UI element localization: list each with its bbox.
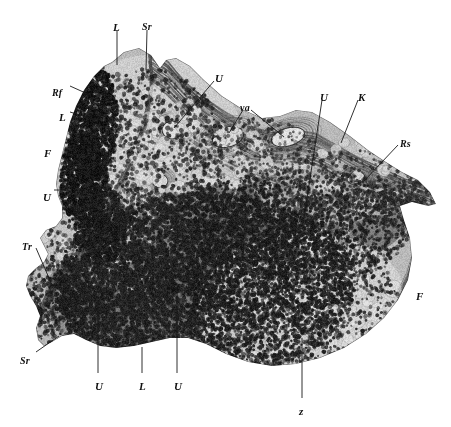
figure-label-L-left: L (59, 112, 66, 123)
figure-label-z-bot: z (299, 406, 303, 417)
figure-label-U-bot1: U (95, 381, 103, 392)
figure-label-U-upper: U (215, 73, 223, 84)
figure-label-F-right: F (416, 291, 424, 302)
histology-tissue-image (0, 0, 451, 427)
figure-label-va: va (240, 103, 250, 113)
figure-label-Rs-right: Rs (400, 139, 411, 149)
figure-label-Tr-left: Tr (22, 242, 32, 252)
figure-label-U-bot2: U (174, 381, 182, 392)
figure-label-L-top: L (113, 22, 120, 33)
figure-label-Rf-left: Rf (52, 88, 62, 98)
figure-label-F-left: F (44, 148, 52, 159)
histology-figure: LSrRfLFUUvaUKRsFTrSrULUz (0, 0, 451, 427)
figure-label-Sr-top: Sr (142, 22, 152, 32)
figure-label-Sr-bottom: Sr (20, 356, 30, 366)
figure-label-U-leftmid: U (43, 192, 51, 203)
figure-label-K-right: K (358, 92, 366, 103)
figure-label-U-right: U (320, 92, 328, 103)
figure-label-L-bot: L (139, 381, 146, 392)
